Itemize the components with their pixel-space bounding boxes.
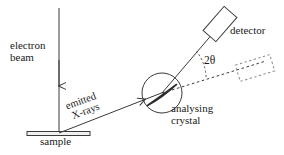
label-two-theta: 2θ [204, 55, 215, 67]
diagram-canvas: electron beam emitted X-rays sample anal… [0, 0, 284, 155]
label-detector: detector [230, 25, 265, 37]
label-analysing-crystal: analysing crystal [171, 103, 213, 126]
detector-ghost-outline [235, 55, 274, 82]
label-electron-beam: electron beam [10, 40, 45, 63]
label-sample: sample [40, 136, 71, 148]
